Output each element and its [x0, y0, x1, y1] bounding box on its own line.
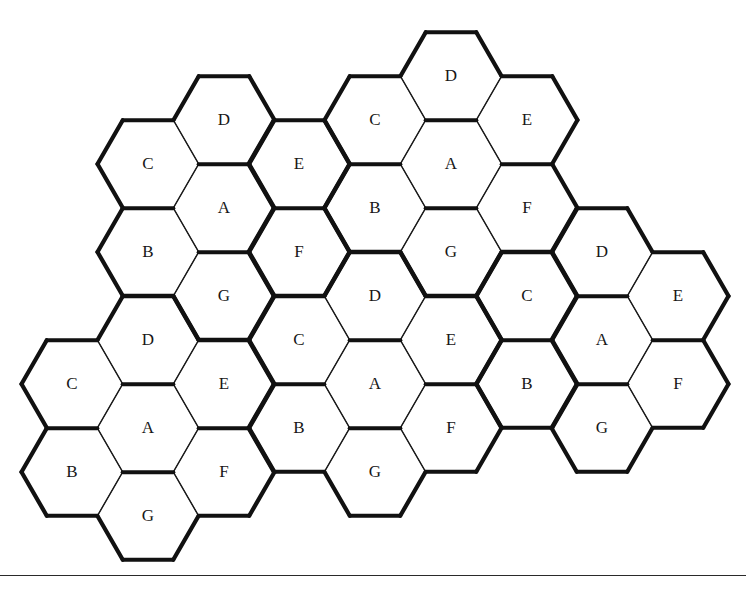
hex-label-g: G	[445, 242, 457, 261]
hex-label-g: G	[369, 462, 381, 481]
hex-label-e: E	[294, 154, 304, 173]
hex-label-b: B	[521, 374, 532, 393]
hex-label-e: E	[446, 330, 456, 349]
hex-label-a: A	[596, 330, 609, 349]
hex-label-f: F	[673, 374, 682, 393]
hex-label-a: A	[142, 418, 155, 437]
hex-label-e: E	[673, 286, 683, 305]
hex-label-g: G	[218, 286, 230, 305]
hex-label-b: B	[66, 462, 77, 481]
hex-label-e: E	[219, 374, 229, 393]
hex-label-d: D	[218, 110, 230, 129]
hex-label-d: D	[142, 330, 154, 349]
hex-label-d: D	[596, 242, 608, 261]
hex-label-a: A	[218, 198, 231, 217]
hex-label-b: B	[293, 418, 304, 437]
hex-label-b: B	[142, 242, 153, 261]
hex-label-c: C	[66, 374, 77, 393]
footer-divider-rule	[0, 575, 746, 576]
hex-label-d: D	[369, 286, 381, 305]
hex-label-a: A	[369, 374, 382, 393]
hex-label-c: C	[293, 330, 304, 349]
hex-tiling-figure: DCEABFGDCEABFGDCEABFGDCEABFGDCEABFG	[0, 0, 746, 594]
hex-label-a: A	[445, 154, 458, 173]
hex-label-b: B	[369, 198, 380, 217]
hex-label-d: D	[445, 66, 457, 85]
hex-label-f: F	[522, 198, 531, 217]
hex-label-c: C	[369, 110, 380, 129]
hex-grid-svg: DCEABFGDCEABFGDCEABFGDCEABFGDCEABFG	[0, 0, 746, 594]
hex-label-f: F	[219, 462, 228, 481]
hex-label-g: G	[596, 418, 608, 437]
hex-label-f: F	[446, 418, 455, 437]
hex-label-c: C	[142, 154, 153, 173]
hex-label-f: F	[294, 242, 303, 261]
hex-label-e: E	[522, 110, 532, 129]
hex-label-g: G	[142, 506, 154, 525]
hex-label-c: C	[521, 286, 532, 305]
